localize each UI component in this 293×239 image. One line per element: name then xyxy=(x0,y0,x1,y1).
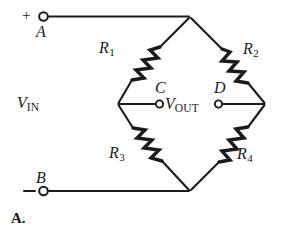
output-voltage-symbol: V xyxy=(165,95,175,112)
figure-container: + A B VIN R1 R2 R3 R4 C D VOUT A. xyxy=(0,0,293,239)
resistor-r2-symbol: R xyxy=(243,40,253,57)
output-node-c-label: C xyxy=(155,80,166,96)
terminal-b-node xyxy=(39,187,48,196)
input-voltage-label: VIN xyxy=(17,95,39,113)
resistor-r2-subscript: 2 xyxy=(253,47,259,59)
resistor-r4-symbol: R xyxy=(237,145,247,162)
resistor-r1-label: R1 xyxy=(99,40,115,58)
output-node-c xyxy=(156,100,163,107)
resistor-r3-symbol: R xyxy=(109,144,119,161)
input-voltage-symbol: V xyxy=(17,94,27,111)
input-voltage-subscript: IN xyxy=(27,101,40,113)
positive-sign-label: + xyxy=(22,8,30,23)
wire-r4-upper xyxy=(248,105,265,127)
resistor-r1-zigzag xyxy=(132,47,160,80)
wire-r3-lower xyxy=(162,161,189,190)
resistor-r2-label: R2 xyxy=(243,41,259,59)
resistor-r4-label: R4 xyxy=(237,146,253,164)
wire-r2-lower xyxy=(248,83,265,103)
resistor-r3-label: R3 xyxy=(109,145,125,163)
resistor-r1-subscript: 1 xyxy=(109,46,115,58)
terminal-a-label: A xyxy=(36,24,46,40)
terminal-a-node xyxy=(39,12,48,21)
output-voltage-subscript: OUT xyxy=(175,102,199,114)
terminal-b-label: B xyxy=(36,170,46,186)
wire-r4-lower xyxy=(191,162,219,190)
wire-r3-upper xyxy=(119,105,134,128)
wire-r1-upper xyxy=(160,18,189,47)
wire-r2-upper xyxy=(191,18,222,49)
resistor-r3-zigzag xyxy=(133,128,162,161)
output-node-d xyxy=(215,100,222,107)
resistor-r4-subscript: 4 xyxy=(247,152,253,164)
wire-r1-lower xyxy=(119,80,133,103)
resistor-r3-subscript: 3 xyxy=(119,151,125,163)
resistor-r1-symbol: R xyxy=(99,39,109,56)
output-voltage-label: VOUT xyxy=(165,96,199,114)
figure-caption: A. xyxy=(11,211,26,226)
output-node-d-label: D xyxy=(214,80,226,96)
